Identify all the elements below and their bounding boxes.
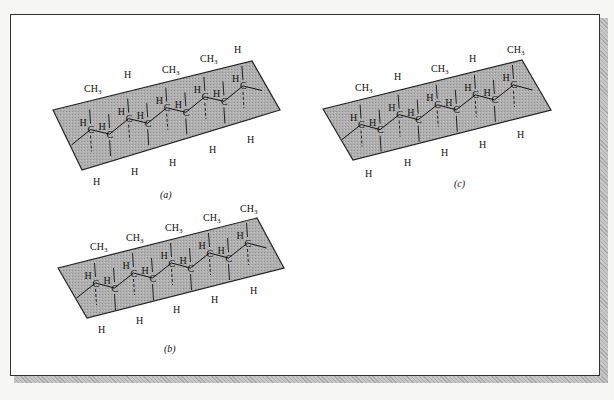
panel-a-isotactic: CHCHCHCHCHCHCHCHCHCH3HCH3CH3HHHHHH xyxy=(53,44,280,187)
hydrogen-atom: H xyxy=(502,72,509,83)
methyl-group-label: CH3 xyxy=(200,53,218,66)
methyl-group-label: CH3 xyxy=(162,64,180,77)
carbon-atom: C xyxy=(377,124,384,135)
hydrogen-atom: H xyxy=(407,107,414,118)
hydrogen-atom: H xyxy=(464,82,471,93)
hydrogen-label: H xyxy=(209,144,216,155)
carbon-atom: C xyxy=(164,102,171,113)
hydrogen-atom: H xyxy=(123,260,130,271)
hydrogen-label: H xyxy=(250,285,257,296)
carbon-atom: C xyxy=(472,89,479,100)
carbon-atom: C xyxy=(510,79,517,90)
carbon-atom: C xyxy=(112,283,119,294)
carbon-atom: C xyxy=(207,248,214,259)
hydrogen-label: H xyxy=(136,315,143,326)
methyl-group-label: CH3 xyxy=(126,232,144,245)
carbon-atom: C xyxy=(245,238,252,249)
methyl-group-label: CH3 xyxy=(84,83,102,96)
hydrogen-atom: H xyxy=(237,230,244,241)
hydrogen-atom: H xyxy=(142,265,149,276)
hydrogen-atom: H xyxy=(232,73,239,84)
hydrogen-atom: H xyxy=(194,84,201,95)
hydrogen-atom: H xyxy=(161,250,168,261)
hydrogen-atom: H xyxy=(199,240,206,251)
caption-a: (a) xyxy=(160,189,172,201)
methyl-group-label: CH3 xyxy=(90,241,108,254)
methyl-group-label: CH3 xyxy=(203,212,221,225)
hydrogen-label: H xyxy=(469,53,476,64)
carbon-atom: C xyxy=(240,80,247,91)
carbon-atom: C xyxy=(183,107,190,118)
hydrogen-label: H xyxy=(93,176,100,187)
hydrogen-atom: H xyxy=(426,92,433,103)
hydrogen-label: H xyxy=(479,139,486,150)
carbon-atom: C xyxy=(131,268,138,279)
hydrogen-label: H xyxy=(517,129,524,140)
panel-b-syndiotactic: CHCHCHCHCHCHCHCHCHCH3CH3CH3CH3CH3HHHHH xyxy=(58,203,284,335)
hydrogen-atom: H xyxy=(104,275,111,286)
hydrogen-atom: H xyxy=(388,102,395,113)
hydrogen-atom: H xyxy=(180,255,187,266)
hydrogen-atom: H xyxy=(213,88,220,99)
carbon-atom: C xyxy=(202,91,209,102)
hydrogen-atom: H xyxy=(445,97,452,108)
hydrogen-atom: H xyxy=(99,121,106,132)
methyl-group-label: CH3 xyxy=(355,82,373,95)
hydrogen-atom: H xyxy=(118,106,125,117)
carbon-atom: C xyxy=(396,109,403,120)
hydrogen-label: H xyxy=(98,324,105,335)
hydrogen-label: H xyxy=(124,69,131,80)
hydrogen-label: H xyxy=(441,147,448,158)
hydrogen-label: H xyxy=(173,304,180,315)
hydrogen-atom: H xyxy=(369,117,376,128)
hydrogen-atom: H xyxy=(483,87,490,98)
caption-c: (c) xyxy=(454,178,466,190)
carbon-atom: C xyxy=(434,99,441,110)
hydrogen-atom: H xyxy=(156,95,163,106)
carbon-atom: C xyxy=(358,119,365,130)
methyl-group-label: CH3 xyxy=(165,222,183,235)
hydrogen-label: H xyxy=(365,168,372,179)
carbon-atom: C xyxy=(126,113,133,124)
carbon-atom: C xyxy=(221,96,228,107)
hydrogen-atom: H xyxy=(175,99,182,110)
carbon-atom: C xyxy=(188,263,195,274)
hydrogen-label: H xyxy=(131,166,138,177)
carbon-atom: C xyxy=(415,114,422,125)
hydrogen-label: H xyxy=(169,157,176,168)
methyl-group-label: CH3 xyxy=(240,203,258,216)
panel-c-atactic: CHCHCHCHCHCHCHCHCHCH3HCH3HCH3HHHHH xyxy=(323,44,551,179)
hydrogen-label: H xyxy=(247,134,254,145)
hydrogen-atom: H xyxy=(85,270,92,281)
tacticity-diagram: CHCHCHCHCHCHCHCHCHCH3HCH3CH3HHHHHH CHCHC… xyxy=(0,0,614,400)
hydrogen-atom: H xyxy=(218,245,225,256)
caption-b: (b) xyxy=(164,343,176,355)
hydrogen-atom: H xyxy=(350,112,357,123)
hydrogen-atom: H xyxy=(80,117,87,128)
carbon-atom: C xyxy=(107,129,114,140)
methyl-group-label: CH3 xyxy=(431,63,449,76)
carbon-atom: C xyxy=(226,253,233,264)
methyl-group-label: CH3 xyxy=(507,44,525,57)
hydrogen-label: H xyxy=(234,44,241,55)
carbon-atom: C xyxy=(145,118,152,129)
carbon-atom: C xyxy=(93,278,100,289)
carbon-atom: C xyxy=(88,124,95,135)
hydrogen-atom: H xyxy=(137,110,144,121)
carbon-atom: C xyxy=(150,273,157,284)
carbon-atom: C xyxy=(453,104,460,115)
carbon-atom: C xyxy=(169,258,176,269)
carbon-atom: C xyxy=(491,94,498,105)
hydrogen-label: H xyxy=(404,157,411,168)
hydrogen-label: H xyxy=(394,71,401,82)
hydrogen-label: H xyxy=(211,294,218,305)
